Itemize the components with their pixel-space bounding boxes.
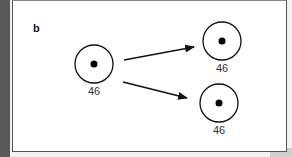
nucleus-icon (219, 38, 226, 45)
parent-cell (75, 45, 113, 83)
daughter-cell-top (203, 22, 241, 60)
arrow-to-top-icon (124, 47, 194, 60)
daughter-top-chromosome-count: 46 (216, 62, 228, 74)
nucleus-icon (216, 100, 223, 107)
parent-chromosome-count: 46 (88, 85, 100, 97)
nucleus-icon (91, 61, 98, 68)
arrow-to-bottom-icon (123, 82, 187, 98)
cell-division-diagram (0, 0, 292, 157)
daughter-cell-bottom (200, 84, 238, 122)
daughter-bottom-chromosome-count: 46 (213, 124, 225, 136)
